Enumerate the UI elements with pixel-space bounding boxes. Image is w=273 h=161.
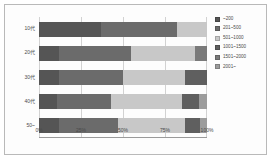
bar-segment: [57, 94, 111, 109]
bar-segment: [118, 118, 185, 133]
bar-segment: [111, 94, 182, 109]
plot-area: 10代20代30代40代50~: [39, 17, 207, 138]
legend-label: 1001~1500: [223, 45, 246, 50]
legend-label: 1501~2000: [223, 55, 246, 60]
x-tick-label: 25%: [76, 128, 86, 133]
legend-label: ~200: [223, 17, 233, 22]
legend-swatch-icon: [215, 45, 220, 50]
bar-segment: [59, 46, 131, 61]
bar-row: 10代: [39, 22, 207, 37]
x-tick-label: 50%: [118, 128, 128, 133]
legend-item[interactable]: ~200: [215, 16, 267, 22]
bar-segment: [185, 118, 200, 133]
bar-row: 30代: [39, 70, 207, 85]
legend-swatch-icon: [215, 55, 220, 60]
category-label: 20代: [24, 50, 35, 55]
category-label: 40代: [24, 99, 35, 104]
x-tick-label: 100%: [201, 128, 214, 133]
legend-swatch-icon: [215, 26, 220, 31]
x-axis-line: [39, 137, 207, 138]
legend-item[interactable]: 201~500: [215, 26, 267, 32]
bar-segment: [39, 22, 101, 37]
bar-segment: [59, 70, 123, 85]
legend-item[interactable]: 1501~2000: [215, 54, 267, 60]
chart-frame: 10代20代30代40代50~ 0%25%50%75%100% ~200201~…: [4, 4, 267, 155]
bar-row: 20代: [39, 46, 207, 61]
x-tick-label: 75%: [160, 128, 170, 133]
bar-segment: [39, 94, 57, 109]
bar-row: 40代: [39, 94, 207, 109]
bar-segment: [123, 70, 185, 85]
bar-segment: [39, 46, 59, 61]
legend-item[interactable]: 501~1000: [215, 35, 267, 41]
legend-swatch-icon: [215, 36, 220, 41]
x-tick-label: 0%: [35, 128, 42, 133]
bar-segment: [185, 70, 207, 85]
legend-label: 201~500: [223, 26, 241, 31]
bar-segment: [182, 94, 199, 109]
legend-label: 2001~: [223, 65, 236, 70]
bar-segment: [59, 118, 118, 133]
category-label: 50~: [27, 123, 35, 128]
category-label: 10代: [24, 26, 35, 31]
legend-swatch-icon: [215, 64, 220, 69]
legend-label: 501~1000: [223, 36, 244, 41]
legend-swatch-icon: [215, 17, 220, 22]
bar-segment: [199, 94, 207, 109]
bar-segment: [39, 70, 59, 85]
legend-item[interactable]: 2001~: [215, 64, 267, 70]
chart-legend: ~200201~500501~10001001~15001501~2000200…: [215, 16, 267, 74]
bar-segment: [177, 22, 207, 37]
bar-segment: [195, 46, 207, 61]
bar-segment: [131, 46, 195, 61]
legend-item[interactable]: 1001~1500: [215, 45, 267, 51]
category-label: 30代: [24, 75, 35, 80]
bar-segment: [101, 22, 177, 37]
